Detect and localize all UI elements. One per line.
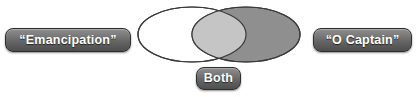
label-left-set-text: “Emancipation” [19, 34, 116, 47]
label-right-set[interactable]: “O Captain” [313, 28, 412, 52]
label-intersection[interactable]: Both [196, 67, 241, 90]
label-right-set-text: “O Captain” [326, 34, 400, 47]
label-left-set[interactable]: “Emancipation” [5, 28, 131, 52]
label-intersection-text: Both [204, 72, 233, 85]
venn-diagram-container: “Emancipation” “O Captain” Both [0, 0, 418, 97]
